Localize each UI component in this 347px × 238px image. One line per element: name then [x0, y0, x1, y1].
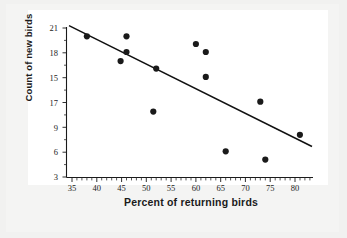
data-point[interactable] — [123, 49, 129, 55]
data-point[interactable] — [123, 33, 129, 39]
y-tick-label: 15 — [42, 73, 58, 83]
y-tick-label: 9 — [42, 123, 58, 133]
x-tick-label: 80 — [286, 183, 304, 193]
data-point[interactable] — [223, 148, 229, 154]
data-point[interactable] — [262, 157, 268, 163]
data-point[interactable] — [150, 109, 156, 115]
x-tick-label: 60 — [187, 183, 205, 193]
data-point[interactable] — [297, 132, 303, 138]
x-tick-label: 35 — [63, 183, 81, 193]
x-tick-label: 50 — [137, 183, 155, 193]
scatterplot-figure: 21 18 15 17 9 6 3 35 40 45 50 55 60 65 7… — [0, 0, 347, 238]
y-tick-label: 21 — [42, 23, 58, 33]
x-tick-label: 40 — [88, 183, 106, 193]
x-tick-label: 75 — [261, 183, 279, 193]
y-axis-title: Count of new birds — [23, 0, 34, 128]
y-tick-label: 18 — [42, 48, 58, 58]
data-point[interactable] — [203, 49, 209, 55]
x-tick-label: 55 — [162, 183, 180, 193]
y-tick-label: 3 — [42, 172, 58, 182]
x-tick-label: 45 — [113, 183, 131, 193]
data-point[interactable] — [118, 58, 124, 64]
y-axis-ticks — [63, 28, 67, 177]
y-tick-label: 6 — [42, 147, 58, 157]
regression-line — [69, 26, 312, 147]
x-tick-label: 65 — [212, 183, 230, 193]
data-points — [84, 33, 303, 163]
data-point[interactable] — [257, 99, 263, 105]
x-axis-title: Percent of returning birds — [66, 196, 316, 208]
x-tick-label: 70 — [236, 183, 254, 193]
y-tick-label: 17 — [42, 98, 58, 108]
x-axis-ticks — [72, 178, 295, 183]
data-point[interactable] — [153, 66, 159, 72]
data-point[interactable] — [84, 33, 90, 39]
data-point[interactable] — [203, 74, 209, 80]
data-point[interactable] — [193, 41, 199, 47]
